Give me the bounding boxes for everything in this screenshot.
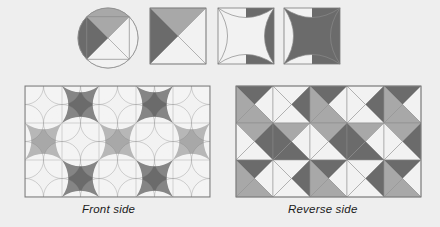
front-side-panel xyxy=(7,68,229,216)
quilt-motif-figure xyxy=(0,0,440,227)
reverse-side-caption: Reverse side xyxy=(288,203,358,215)
front-cells xyxy=(7,68,229,216)
front-side-caption: Front side xyxy=(82,203,135,215)
reverse-side-panel xyxy=(236,86,421,197)
motif-step-4 xyxy=(284,8,340,64)
motif-step-1 xyxy=(78,8,138,68)
motif-step-3 xyxy=(218,8,274,64)
motif-step-2 xyxy=(150,8,206,64)
